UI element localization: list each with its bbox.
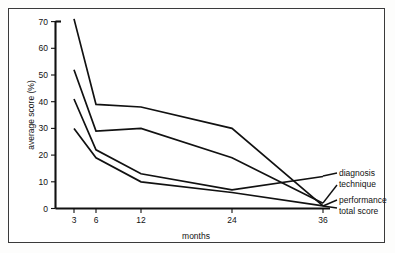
- series-line-total-score: [74, 19, 323, 206]
- y-tick-label-10: 10: [39, 177, 49, 187]
- y-tick-label-60: 60: [39, 43, 49, 53]
- series-label-performance: performance: [339, 195, 387, 205]
- leader-line-diagnosis: [323, 173, 337, 176]
- x-tick-label-24: 24: [227, 215, 237, 225]
- x-tick-label-12: 12: [136, 215, 146, 225]
- x-tick-label-3: 3: [72, 215, 77, 225]
- x-tick-label-36: 36: [318, 215, 328, 225]
- y-tick-label-0: 0: [43, 204, 48, 214]
- y-tick-label-30: 30: [39, 123, 49, 133]
- chart-figure: 0 10 20 30 40 50 60 70 3 6 12 24 36 mont…: [0, 0, 395, 253]
- line-chart-canvas: 0 10 20 30 40 50 60 70 3 6 12 24 36 mont…: [0, 0, 395, 253]
- y-tick-label-70: 70: [39, 17, 49, 27]
- y-axis-title: average score (%): [26, 80, 36, 150]
- y-tick-label-50: 50: [39, 70, 49, 80]
- x-tick-label-6: 6: [94, 215, 99, 225]
- series-line-diagnosis: [74, 99, 323, 190]
- series-line-performance: [74, 128, 323, 205]
- x-axis-title: months: [182, 231, 210, 241]
- series-label-total-score: total score: [339, 206, 378, 216]
- series-label-technique: technique: [339, 179, 376, 189]
- y-tick-label-20: 20: [39, 150, 49, 160]
- y-tick-label-40: 40: [39, 97, 49, 107]
- series-label-diagnosis: diagnosis: [339, 168, 375, 178]
